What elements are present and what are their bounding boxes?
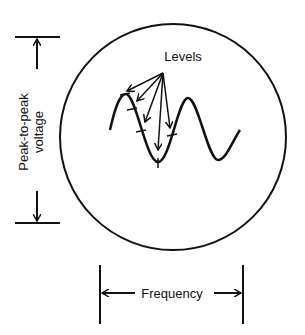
level-ticks <box>120 93 177 168</box>
oscilloscope-diagram: Peak-to-peak voltage Levels Frequency <box>0 0 305 335</box>
voltage-label-line1: Peak-to-peak <box>16 93 31 171</box>
levels-label: Levels <box>164 49 202 64</box>
voltage-label-line2: voltage <box>31 111 46 153</box>
sine-waveform <box>110 94 240 162</box>
level-arrows <box>127 73 170 150</box>
frequency-label: Frequency <box>141 286 203 301</box>
